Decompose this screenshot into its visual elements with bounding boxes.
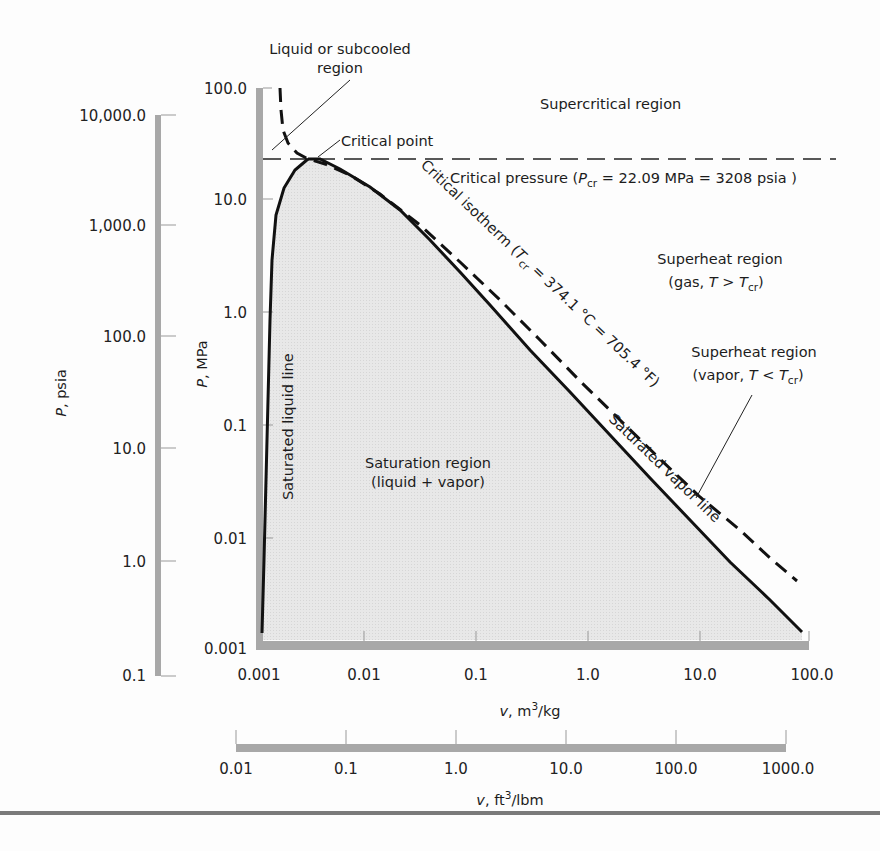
critical-point-label: Critical point: [341, 133, 434, 149]
svg-text:0.1: 0.1: [223, 417, 247, 435]
y-mpa-tick-labels: 100.0 10.0 1.0 0.1 0.01 0.001: [204, 80, 247, 658]
liquid-region-pointer: [272, 80, 350, 150]
svg-text:10.0: 10.0: [683, 666, 716, 684]
bottom-rule: [0, 811, 880, 815]
svg-text:100.0: 100.0: [791, 666, 834, 684]
svg-text:0.1: 0.1: [334, 760, 358, 778]
superheat-vapor-label-2: (vapor, T < Tcr): [692, 367, 803, 386]
critical-point-pointer: [318, 140, 340, 157]
x-m3kg-axis-label: v, m3/kg: [499, 700, 560, 719]
liquid-region-label-1: Liquid or subcooled: [269, 41, 411, 57]
svg-text:1000.0: 1000.0: [762, 760, 815, 778]
saturation-region-fill: [262, 159, 802, 640]
svg-text:10,000.0: 10,000.0: [79, 107, 146, 125]
x-axis-m3kg-bar: [256, 641, 809, 650]
x-m3kg-tick-labels: 0.001 0.01 0.1 1.0 10.0 100.0: [238, 666, 834, 684]
y-psia-ticks: [161, 115, 176, 676]
y-psia-axis-label: P, psia: [53, 369, 69, 417]
svg-text:1.0: 1.0: [122, 553, 146, 571]
svg-text:100.0: 100.0: [103, 328, 146, 346]
svg-text:100.0: 100.0: [655, 760, 698, 778]
pv-diagram: Liquid or subcooled region Critical poin…: [0, 0, 880, 851]
svg-text:1.0: 1.0: [444, 760, 468, 778]
svg-text:0.1: 0.1: [122, 667, 146, 685]
svg-text:10.0: 10.0: [113, 440, 146, 458]
x-ft3lbm-tick-labels: 0.01 0.1 1.0 10.0 100.0 1000.0: [219, 760, 814, 778]
svg-text:0.01: 0.01: [214, 530, 247, 548]
x-ft3lbm-axis-label: v, ft3/lbm: [476, 789, 543, 808]
svg-text:0.01: 0.01: [347, 666, 380, 684]
svg-text:0.1: 0.1: [464, 666, 488, 684]
x-ft3-ticks: [236, 730, 786, 744]
y-axis-psia-bar: [155, 115, 161, 676]
svg-text:100.0: 100.0: [204, 80, 247, 98]
svg-text:10.0: 10.0: [214, 191, 247, 209]
y-axis-mpa-bar: [256, 88, 263, 648]
svg-text:1,000.0: 1,000.0: [89, 217, 146, 235]
saturation-region-label-1: Saturation region: [365, 455, 491, 471]
superheat-gas-label-1: Superheat region: [657, 251, 782, 267]
saturation-region-label-2: (liquid + vapor): [371, 474, 485, 490]
svg-text:0.001: 0.001: [204, 640, 247, 658]
svg-text:0.01: 0.01: [219, 760, 252, 778]
svg-text:1.0: 1.0: [223, 304, 247, 322]
vapor-region-pointer: [696, 395, 752, 498]
superheat-vapor-label-1: Superheat region: [691, 344, 816, 360]
svg-text:1.0: 1.0: [576, 666, 600, 684]
y-mpa-axis-label: P, MPa: [194, 340, 210, 387]
supercritical-label: Supercritical region: [540, 96, 681, 112]
x-axis-ft3lbm-bar: [236, 744, 786, 752]
superheat-gas-label-2: (gas, T > Tcr): [668, 274, 763, 293]
svg-text:10.0: 10.0: [549, 760, 582, 778]
critical-pressure-label: Critical pressure (Pcr = 22.09 MPa = 320…: [450, 170, 797, 189]
svg-text:0.001: 0.001: [238, 666, 281, 684]
chart-canvas: Liquid or subcooled region Critical poin…: [0, 0, 880, 851]
saturated-liquid-line-label: Saturated liquid line: [280, 353, 296, 500]
liquid-region-label-2: region: [317, 60, 363, 76]
y-psia-tick-labels: 10,000.0 1,000.0 100.0 10.0 1.0 0.1: [79, 107, 146, 685]
